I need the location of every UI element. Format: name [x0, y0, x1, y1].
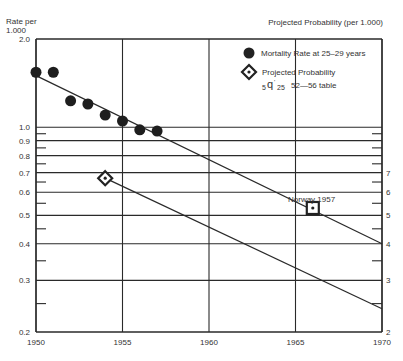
y-tick-label-left: 0.7	[19, 169, 31, 178]
y-tick-label-right: 5	[386, 211, 391, 220]
mortality-point	[117, 115, 128, 126]
mortality-point	[65, 95, 76, 106]
mortality-point	[48, 67, 59, 78]
legend-sub-prefix: 5	[262, 84, 266, 91]
diamond-icon	[242, 65, 256, 79]
legend-mortality-label: Mortality Rate at 25–29 years	[261, 49, 366, 58]
chart-canvas: 195019551960196519702.01.00.90.80.70.60.…	[0, 0, 403, 361]
y-tick-label-right: 4	[386, 240, 391, 249]
y-tick-label-left: 0.6	[19, 188, 31, 197]
legend-sub-prime: '	[274, 79, 275, 85]
filled-circle-icon	[244, 48, 255, 59]
norway-annotation: Norway 1957	[288, 195, 336, 204]
y-tick-label-left: 2.0	[19, 35, 31, 44]
legend-sub-q: q	[267, 78, 273, 90]
x-tick-label: 1965	[287, 338, 305, 347]
legend-sub-table: 52—56 table	[291, 81, 337, 90]
y-tick-label-left: 0.2	[19, 328, 31, 337]
mortality-point	[134, 124, 145, 135]
mortality-point	[82, 99, 93, 110]
y-tick-label-left: 0.8	[19, 152, 31, 161]
y-tick-label-right: 3	[386, 276, 391, 285]
x-tick-label: 1970	[373, 338, 391, 347]
projected-diamond-point	[98, 171, 112, 185]
y-tick-label-left: 0.3	[19, 276, 31, 285]
y-tick-label-left: 0.5	[19, 211, 31, 220]
x-tick-label: 1950	[27, 338, 45, 347]
legend-sub-suffix: 25	[277, 84, 285, 91]
mortality-point	[31, 67, 42, 78]
y-tick-label-left: 0.4	[19, 240, 31, 249]
y-tick-label-left: 1.0	[19, 123, 31, 132]
left-axis-title-line1: Rate per	[6, 17, 37, 26]
legend: Mortality Rate at 25–29 years Projected …	[242, 48, 366, 92]
y-tick-label-left: 0.9	[19, 137, 31, 146]
legend-projected-label: Projected Probability	[262, 68, 335, 77]
y-tick-label-right: 6	[386, 188, 391, 197]
mortality-point	[100, 110, 111, 121]
x-tick-label: 1960	[200, 338, 218, 347]
right-axis-title: Projected Probability (per 1.000)	[268, 18, 383, 27]
x-tick-label: 1955	[114, 338, 132, 347]
y-tick-label-right: 7	[386, 169, 391, 178]
mortality-point	[152, 126, 163, 137]
left-axis-title-line2: 1.000	[6, 26, 27, 35]
y-tick-label-right: 2	[386, 328, 391, 337]
